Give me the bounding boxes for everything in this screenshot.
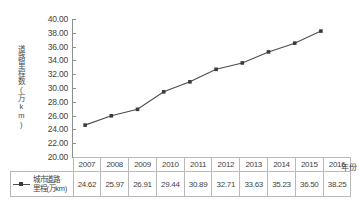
legend-marker-icon [13,181,30,188]
data-point-marker [241,61,245,65]
legend-label-line2: 里程(万km) [33,184,67,193]
table-data-cell: 26.91 [129,172,157,197]
data-point-marker [110,114,114,118]
y-tick-label: 28.00 [48,97,68,107]
line-series-svg [72,19,334,157]
table-header-cell: 2009 [129,158,157,172]
legend-label-line1: 城市道路 [33,175,60,184]
y-tick-label: 38.00 [48,28,68,38]
chart-figure: 道路里程数(万km) 40.0038.0036.0034.0032.0030.0… [0,0,359,207]
data-point-marker [267,50,271,54]
table-data-cell: 33.63 [240,172,268,197]
y-tick-label: 40.00 [48,14,68,24]
table-header-cell: 2011 [184,158,212,172]
y-axis-tick-labels: 40.0038.0036.0034.0032.0030.0028.0026.00… [28,16,70,156]
y-tick-label: 34.00 [48,55,68,65]
data-point-marker [188,80,192,84]
table-data-cell: 25.97 [101,172,129,197]
table-header-cell: 2014 [268,158,296,172]
table-header-cell: 2007 [73,158,101,172]
series-line [85,31,321,125]
table-header-cell: 2015 [295,158,323,172]
table-header-cell: 2010 [156,158,184,172]
table-data-cell: 29.44 [156,172,184,197]
x-axis-outer-label: 年份 [341,161,357,172]
table-header-cell: 2008 [101,158,129,172]
data-table-wrapper: 2007200820092010201120122013201420152016… [10,157,340,197]
table-data-cell: 32.71 [212,172,240,197]
data-point-marker [83,123,87,127]
table-header-cell: 2012 [212,158,240,172]
y-tick-label: 22.00 [48,138,68,148]
plot-area [72,19,334,157]
table-data-cell: 24.62 [73,172,101,197]
y-tick-label: 30.00 [48,83,68,93]
y-tick-label: 24.00 [48,124,68,134]
y-tick-label: 26.00 [48,111,68,121]
table-corner-cell [11,158,74,172]
data-point-marker [214,68,218,72]
legend-label: 城市道路 里程(万km) [33,175,67,193]
y-tick-label: 32.00 [48,69,68,79]
table-row-header: 2007200820092010201120122013201420152016 [11,158,351,172]
table-data-cell: 35.23 [268,172,296,197]
legend-cell: 城市道路 里程(万km) [11,172,74,197]
y-tick-label: 36.00 [48,42,68,52]
data-point-marker [162,90,166,94]
table-header-cell: 2013 [240,158,268,172]
data-point-marker [293,41,297,45]
table-row-values: 城市道路 里程(万km) 24.6225.9726.9129.4430.8932… [11,172,351,197]
data-point-marker [136,108,140,112]
table-data-cell: 36.50 [295,172,323,197]
data-table: 2007200820092010201120122013201420152016… [10,157,351,197]
y-axis-title: 道路里程数(万km) [14,22,28,152]
data-point-marker [319,29,323,33]
table-data-cell: 30.89 [184,172,212,197]
table-data-cell: 38.25 [323,172,351,197]
